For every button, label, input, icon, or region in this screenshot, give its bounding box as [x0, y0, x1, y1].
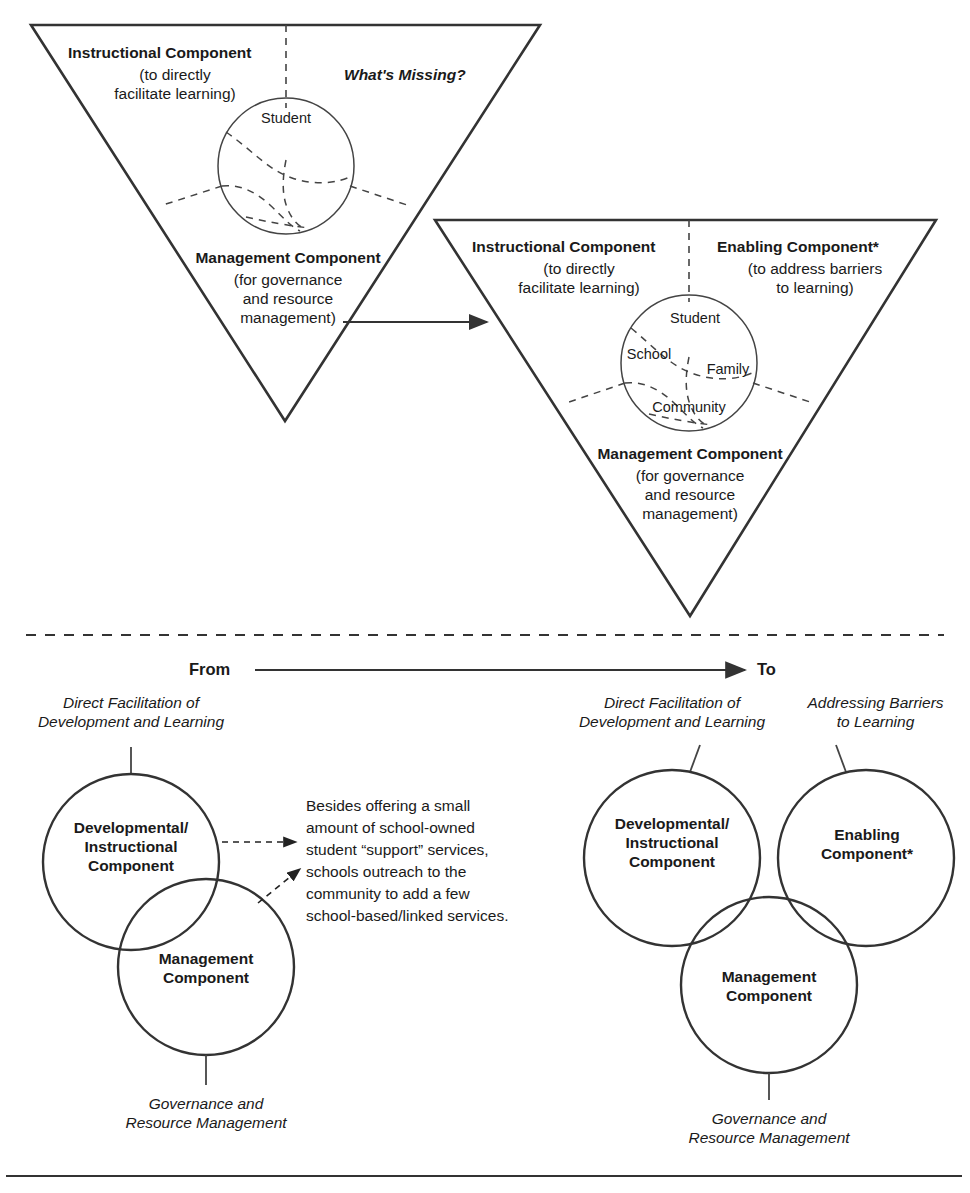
venn-left-circle-2-label: Management Component [126, 950, 286, 988]
venn-left-callouts [222, 842, 300, 903]
triangle-from-whats-missing: What's Missing? [344, 66, 466, 85]
diagram-page: Instructional Component (to directly fac… [0, 0, 970, 1193]
triangle-to-sphere-label-community: Community [626, 399, 752, 417]
triangle-to-enabling-sub: (to address barriers to learning) [700, 260, 930, 298]
triangle-to-instructional-heading: Instructional Component [472, 238, 655, 257]
triangle-from-management-heading: Management Component [163, 249, 413, 268]
venn-left [43, 747, 294, 1085]
triangle-from-instructional-heading: Instructional Component [68, 44, 251, 63]
venn-right-bottom-caption: Governance and Resource Management [659, 1110, 879, 1148]
triangle-to-sphere-label-family: Family [685, 361, 771, 379]
center-explanatory-note: Besides offering a small amount of schoo… [306, 795, 556, 927]
triangle-from-sphere-label-student: Student [236, 110, 336, 128]
diagram-vector-layer [0, 0, 970, 1193]
venn-left-circle-1-label: Developmental/ Instructional Component [51, 819, 211, 876]
triangle-to-management-heading: Management Component [565, 445, 815, 464]
venn-right-top-caption-left: Direct Facilitation of Development and L… [562, 694, 782, 732]
venn-right-top-caption-right: Addressing Barriers to Learning [788, 694, 963, 732]
triangle-from-instructional-sub: (to directly facilitate learning) [60, 66, 290, 104]
venn-right [584, 745, 954, 1100]
venn-right-circle-3-label: Management Component [689, 968, 849, 1006]
triangle-to-instructional-sub: (to directly facilitate learning) [464, 260, 694, 298]
transition-from-label: From [189, 659, 230, 679]
triangle-to-sphere-label-student: Student [645, 310, 745, 328]
transition-to-label: To [757, 659, 776, 679]
triangle-from-spokes [163, 186, 410, 206]
triangle-to-enabling-heading: Enabling Component* [717, 238, 879, 257]
venn-right-circle-2-label: Enabling Component* [789, 826, 945, 864]
venn-right-circle-1-label: Developmental/ Instructional Component [592, 815, 752, 872]
triangle-to-management-sub: (for governance and resource management) [580, 467, 800, 524]
venn-left-top-caption: Direct Facilitation of Development and L… [21, 694, 241, 732]
triangle-to-sphere-label-school: School [604, 346, 694, 364]
venn-left-bottom-caption: Governance and Resource Management [96, 1095, 316, 1133]
triangle-from-management-sub: (for governance and resource management) [178, 271, 398, 328]
